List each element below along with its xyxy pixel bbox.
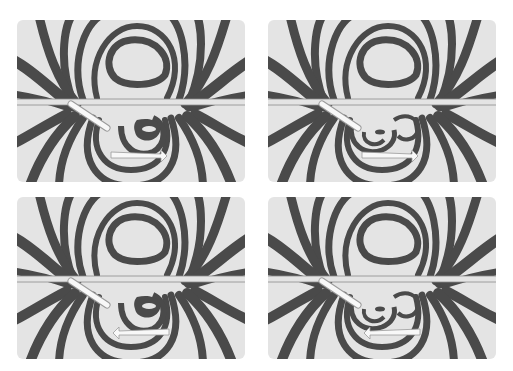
fringe-pattern-bottom-right xyxy=(268,197,496,359)
panel-bottom-right xyxy=(268,197,496,359)
fringe-pattern-bottom-left xyxy=(17,197,245,359)
fringe-pattern-top-right xyxy=(268,20,496,182)
panel-top-right xyxy=(268,20,496,182)
panel-bottom-left xyxy=(17,197,245,359)
panel-top-left xyxy=(17,20,245,182)
fringe-pattern-top-left xyxy=(17,20,245,182)
